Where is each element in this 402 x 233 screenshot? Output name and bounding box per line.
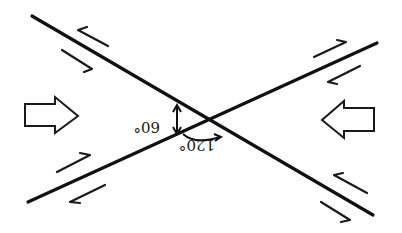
shear-arrow-bottom-left-lower (70, 185, 105, 203)
shear-arrow-bottom-left-upper (57, 153, 90, 172)
shear-arrow-top-right-upper (314, 40, 346, 57)
obtuse-angle-label: 120° (179, 136, 215, 154)
shear-fault-diagram: 60° 120° (0, 0, 402, 233)
acute-angle-label: 60° (133, 118, 160, 136)
shear-arrow-top-left-lower (62, 50, 92, 72)
acute-angle-indicator (173, 105, 181, 134)
right-compression-arrow (322, 101, 374, 138)
shear-arrow-bottom-right-upper (334, 173, 367, 193)
fault-descending (32, 16, 373, 215)
shear-arrow-bottom-right-lower (321, 202, 350, 222)
shear-arrow-top-right-lower (328, 66, 360, 84)
left-compression-arrow (25, 97, 78, 133)
shear-arrow-top-left-upper (78, 27, 108, 46)
